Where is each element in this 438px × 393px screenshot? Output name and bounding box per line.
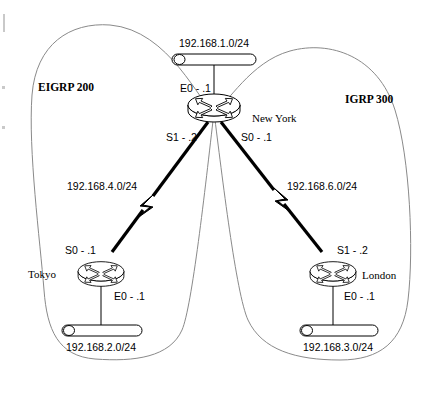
wan-label-192-168-6: 192.168.6.0/24 [287, 180, 357, 192]
wan-label-192-168-4: 192.168.4.0/24 [67, 180, 137, 192]
diagram-canvas: EIGRP 200 IGRP 300 New York Tokyo London… [0, 0, 438, 393]
router-label-newyork: New York [252, 112, 297, 124]
iface-label-tokyo-e0: E0 - .1 [114, 290, 145, 302]
lan-bar-192-168-3 [300, 325, 378, 336]
lan-label-192-168-1: 192.168.1.0/24 [179, 37, 249, 49]
router-london[interactable] [310, 262, 356, 287]
eigrp-200-boundary [31, 25, 214, 360]
router-newyork[interactable] [188, 94, 240, 122]
lan-bar-192-168-2 [62, 325, 142, 336]
lan-label-192-168-2: 192.168.2.0/24 [66, 341, 136, 353]
router-label-london: London [362, 269, 397, 281]
iface-label-ny-s0: S0 - .1 [241, 131, 272, 143]
as-boundaries [31, 25, 410, 360]
router-label-tokyo: Tokyo [28, 268, 56, 280]
iface-label-london-s1: S1 - .2 [337, 244, 368, 256]
iface-label-london-e0: E0 - .1 [344, 290, 375, 302]
lan-bar-192-168-1 [172, 54, 256, 65]
router-tokyo[interactable] [78, 262, 124, 287]
iface-label-ny-s1: S1 - .2 [166, 131, 197, 143]
as-label-eigrp-200: EIGRP 200 [38, 81, 94, 93]
lan-label-192-168-3: 192.168.3.0/24 [303, 341, 373, 353]
iface-label-tokyo-s0: S0 - .1 [65, 244, 96, 256]
labels: EIGRP 200 IGRP 300 New York Tokyo London… [28, 37, 397, 353]
scan-artifacts [2, 14, 5, 129]
network-topology-diagram: EIGRP 200 IGRP 300 New York Tokyo London… [0, 0, 438, 393]
iface-label-ny-e0: E0 - .1 [180, 82, 211, 94]
as-label-igrp-300: IGRP 300 [345, 93, 393, 105]
